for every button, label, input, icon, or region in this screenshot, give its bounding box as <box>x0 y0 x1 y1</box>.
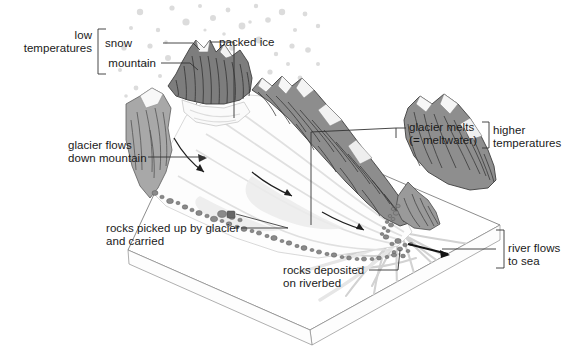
label-rocks-picked-up-by-glacier-and-carried: rocks picked up by glacier and carried <box>106 222 240 248</box>
label-snow: snow <box>60 37 132 50</box>
label-packed-ice: packed ice <box>219 36 274 49</box>
leader-glacier-melts <box>396 128 406 138</box>
diagram-canvas: low temperatures snow mountain packed ic… <box>0 0 582 349</box>
mountain-central-peak <box>168 40 252 104</box>
label-rocks-deposited-on-riverbed: rocks deposited on riverbed <box>283 264 364 290</box>
label-river-flows-to-sea: river flows to sea <box>508 242 560 268</box>
label-mountain: mountain <box>40 57 156 70</box>
label-higher-temperatures: higher temperatures <box>493 124 561 150</box>
label-glacier-melts: glacier melts (= meltwater) <box>409 121 477 147</box>
label-glacier-flows-down-mountain: glacier flows down mountain <box>68 139 147 165</box>
